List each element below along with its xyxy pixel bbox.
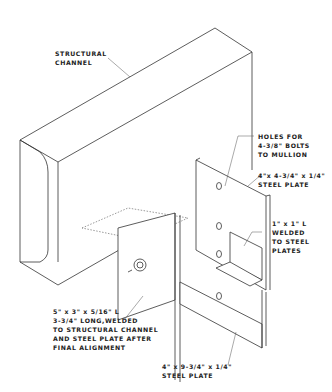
label-lower-plate: 4" x 9-3/4" x 1/4" STEEL PLATE bbox=[162, 363, 232, 379]
svg-text:4" x 9-3/4" x 1/4": 4" x 9-3/4" x 1/4" bbox=[162, 363, 232, 370]
svg-text:TO STRUCTURAL CHANNEL: TO STRUCTURAL CHANNEL bbox=[53, 326, 158, 333]
label-holes: HOLES FOR 4-3/8" BOLTS TO MULLION bbox=[258, 133, 310, 158]
large-angle bbox=[118, 213, 180, 382]
svg-text:5" x 3" x 5/16" L: 5" x 3" x 5/16" L bbox=[53, 308, 119, 315]
svg-text:FINAL ALIGNMENT: FINAL ALIGNMENT bbox=[53, 344, 126, 351]
svg-text:AND STEEL PLATE AFTER: AND STEEL PLATE AFTER bbox=[53, 335, 152, 342]
svg-text:CHANNEL: CHANNEL bbox=[55, 59, 92, 66]
svg-text:STEEL PLATE: STEEL PLATE bbox=[162, 372, 213, 379]
svg-text:STRUCTURAL: STRUCTURAL bbox=[55, 50, 107, 57]
label-small-angle: 1" x 1" L WELDED TO STEEL PLATES bbox=[272, 220, 310, 254]
label-upper-plate: 4"x 4-3/4" x 1/4" STEEL PLATE bbox=[258, 172, 325, 188]
svg-text:WELDED: WELDED bbox=[272, 229, 305, 236]
connection-detail-drawing: STRUCTURAL CHANNEL HOLES FOR 4-3/8" BOLT… bbox=[0, 0, 332, 392]
label-large-angle: 5" x 3" x 5/16" L 3-3/4" LONG,WELDED TO … bbox=[53, 308, 158, 351]
svg-text:TO MULLION: TO MULLION bbox=[258, 151, 307, 158]
svg-text:TO STEEL: TO STEEL bbox=[272, 238, 310, 245]
svg-text:1" x 1" L: 1" x 1" L bbox=[272, 220, 307, 227]
svg-text:3-3/4" LONG,WELDED: 3-3/4" LONG,WELDED bbox=[53, 317, 138, 324]
svg-text:4"x 4-3/4" x 1/4": 4"x 4-3/4" x 1/4" bbox=[258, 172, 325, 179]
label-structural-channel: STRUCTURAL CHANNEL bbox=[55, 50, 107, 66]
svg-text:HOLES FOR: HOLES FOR bbox=[258, 133, 303, 140]
lower-steel-plate bbox=[180, 282, 266, 348]
svg-text:4-3/8" BOLTS: 4-3/8" BOLTS bbox=[258, 142, 310, 149]
svg-text:STEEL PLATE: STEEL PLATE bbox=[258, 181, 309, 188]
svg-text:PLATES: PLATES bbox=[272, 247, 301, 254]
